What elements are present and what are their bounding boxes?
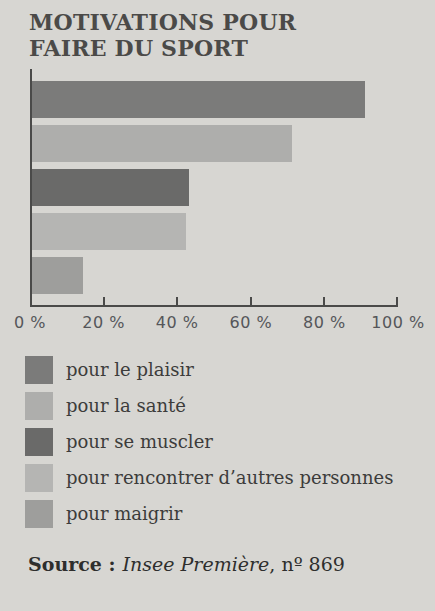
legend-item: pour maigrir [25,500,393,528]
bar-area [32,81,398,301]
axis-tick [323,297,325,305]
legend-item: pour se muscler [25,428,393,456]
axis-tick [103,297,105,305]
chart-title-line1: MOTIVATIONS POUR [29,9,296,35]
x-axis-labels: 0 %20 %40 %60 %80 %100 % [30,313,398,335]
legend-swatch [25,464,53,492]
figure: MOTIVATIONS POUR FAIRE DU SPORT 0 %20 %4… [0,0,435,611]
legend-swatch [25,500,53,528]
source-line: Source :Insee Première, nº 869 [28,553,345,575]
source-label: Source : [28,553,116,575]
legend-swatch [25,392,53,420]
chart-title: MOTIVATIONS POUR FAIRE DU SPORT [29,9,296,61]
legend: pour le plaisirpour la santépour se musc… [25,356,393,536]
axis-tick-label: 20 % [82,313,125,332]
axis-tick-label: 100 % [371,313,424,332]
chart-title-line2: FAIRE DU SPORT [29,35,296,61]
legend-label: pour le plaisir [66,356,194,384]
legend-item: pour la santé [25,392,393,420]
plot-area [30,69,398,307]
axis-tick [176,297,178,305]
bar-3 [32,169,189,206]
bar-4 [32,213,186,250]
axis-tick [250,297,252,305]
axis-tick-label: 60 % [229,313,272,332]
bar-5 [32,257,83,294]
legend-label: pour la santé [66,392,186,420]
bar-1 [32,81,365,118]
legend-label: pour rencontrer d’autres personnes [66,464,393,492]
source-suffix: , nº 869 [269,553,345,575]
axis-tick-label: 0 % [14,313,46,332]
bar-2 [32,125,292,162]
legend-item: pour le plaisir [25,356,393,384]
legend-swatch [25,356,53,384]
axis-tick-label: 40 % [156,313,199,332]
legend-swatch [25,428,53,456]
source-work: Insee Première [123,553,270,575]
legend-label: pour se muscler [66,428,213,456]
legend-label: pour maigrir [66,500,182,528]
axis-tick-label: 80 % [303,313,346,332]
axis-tick [396,297,398,305]
legend-item: pour rencontrer d’autres personnes [25,464,393,492]
